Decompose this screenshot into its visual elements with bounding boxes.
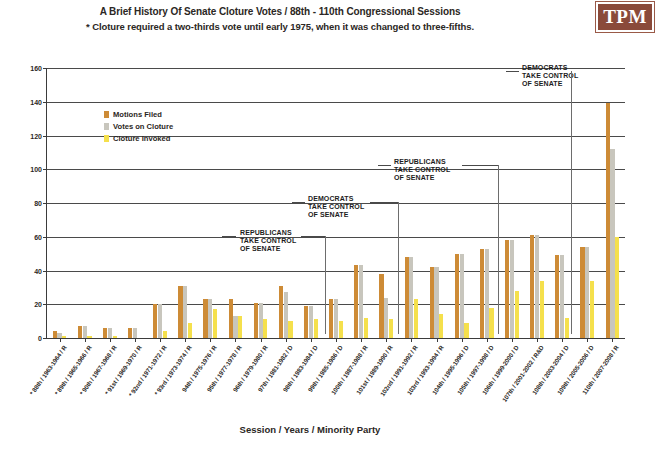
x-axis-tick [85, 338, 86, 342]
annotation-leader-line [462, 165, 498, 166]
annotation-stem-line [498, 165, 499, 334]
bar-invoked [238, 316, 242, 338]
legend-item-votes-on-cloture: Votes on Cloture [104, 120, 173, 132]
y-axis-tick [43, 102, 47, 103]
bar-filed [153, 304, 157, 338]
bar-group [480, 68, 495, 338]
x-axis-tick [185, 338, 186, 342]
y-axis-tick [43, 237, 47, 238]
bar-group [77, 68, 92, 338]
bar-votes [460, 254, 464, 338]
x-axis-tick [210, 338, 211, 342]
bar-invoked [163, 331, 167, 338]
bar-invoked [489, 308, 493, 338]
x-axis-tick [437, 338, 438, 342]
bar-filed [128, 328, 132, 338]
x-axis-tick [537, 338, 538, 342]
bar-votes [510, 240, 514, 338]
bar-votes [585, 247, 589, 338]
bar-invoked [62, 336, 66, 338]
bar-invoked [213, 309, 217, 338]
y-axis-tick-label: 80 [34, 200, 42, 207]
annotation-leader-line [378, 165, 391, 166]
bar-invoked [113, 336, 117, 338]
bar-votes [560, 255, 564, 338]
bar-votes [334, 299, 338, 338]
y-axis-tick [43, 304, 47, 305]
y-axis-tick [43, 271, 47, 272]
chart-page: A Brief History Of Senate Cloture Votes … [0, 0, 660, 449]
bar-group [580, 68, 595, 338]
bar-invoked [263, 319, 267, 338]
y-axis-tick [43, 338, 47, 339]
bar-filed [78, 326, 82, 338]
bar-invoked [515, 291, 519, 338]
chart-legend: Motions Filed Votes on Cloture Cloture I… [104, 108, 173, 144]
y-axis-tick-label: 100 [30, 166, 42, 173]
legend-item-motions-filed: Motions Filed [104, 108, 173, 120]
x-axis-tick [336, 338, 337, 342]
bar-filed [354, 265, 358, 338]
bar-group [605, 68, 620, 338]
bar-invoked [540, 281, 544, 338]
bar-votes [133, 328, 137, 338]
bar-invoked [464, 323, 468, 338]
bar-invoked [364, 318, 368, 338]
bar-group [228, 68, 243, 338]
bar-votes [535, 235, 539, 338]
annotation-stem-line [571, 71, 572, 334]
bar-invoked [389, 319, 393, 338]
x-axis-tick [160, 338, 161, 342]
x-axis-tick [110, 338, 111, 342]
bar-group [203, 68, 218, 338]
bar-group [505, 68, 520, 338]
x-axis-tick [411, 338, 412, 342]
bar-votes [384, 298, 388, 339]
x-axis-tick [386, 338, 387, 342]
legend-swatch-icon [104, 135, 109, 142]
bar-filed [455, 254, 459, 338]
bar-votes [183, 286, 187, 338]
bar-invoked [288, 321, 292, 338]
bar-invoked [615, 237, 619, 338]
annotation-leader-line [370, 202, 398, 203]
bar-invoked [339, 321, 343, 338]
x-axis-tick [311, 338, 312, 342]
bar-invoked [414, 299, 418, 338]
bar-votes [359, 265, 363, 338]
annotation-stem-line [325, 236, 326, 334]
tpm-logo: TPM [596, 2, 654, 32]
bar-group [429, 68, 444, 338]
y-axis-tick-label: 0 [38, 335, 42, 342]
bar-votes [108, 328, 112, 338]
bar-invoked [590, 281, 594, 338]
x-axis-tick [562, 338, 563, 342]
bar-votes [259, 303, 263, 338]
bar-votes [208, 299, 212, 338]
bar-votes [83, 326, 87, 338]
annotation-republicans-take-control-2: REPUBLICANS TAKE CONTROL OF SENATE [394, 158, 450, 181]
annotation-democrats-take-control-1: DEMOCRATS TAKE CONTROL OF SENATE [308, 195, 364, 218]
bar-group [454, 68, 469, 338]
bar-filed [279, 286, 283, 338]
bar-invoked [87, 336, 91, 338]
bar-group [404, 68, 419, 338]
bar-filed [103, 328, 107, 338]
x-axis-tick [235, 338, 236, 342]
bar-filed [53, 331, 57, 338]
bar-filed [606, 103, 610, 338]
bar-invoked [314, 319, 318, 338]
bar-votes [158, 304, 162, 338]
bar-filed [254, 303, 258, 338]
annotation-leader-line [222, 236, 236, 237]
annotation-democrats-take-control-2: DEMOCRATS TAKE CONTROL OF SENATE [522, 64, 578, 87]
bar-votes [409, 257, 413, 338]
annotation-stem-line [398, 202, 399, 334]
legend-label: Votes on Cloture [113, 122, 173, 131]
legend-label: Motions Filed [113, 110, 162, 119]
bar-filed [430, 267, 434, 338]
y-axis-tick-label: 140 [30, 98, 42, 105]
y-axis-tick-label: 20 [34, 301, 42, 308]
x-axis-tick [612, 338, 613, 342]
x-axis-title: Session / Years / Minority Party [0, 424, 620, 435]
